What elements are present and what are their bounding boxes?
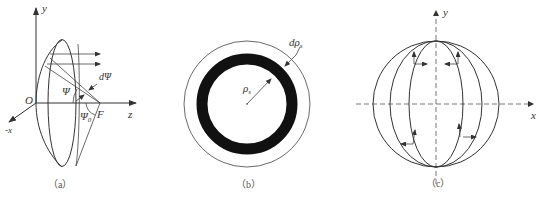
y-axis-label: y: [41, 2, 47, 14]
panel-a-paraboloid-diagram: y z -x O F Ψ dΨ Ψ0 （a）: [5, 2, 136, 190]
caption-a: （a）: [48, 179, 72, 190]
dpsi-arrow-outer: [89, 84, 97, 90]
focus-label: F: [96, 108, 104, 120]
radius-label: ρs: [242, 82, 251, 96]
d-rho-arrow: [285, 55, 296, 66]
panel-b-annular-ring-diagram: ρs dρs （b）: [184, 36, 310, 190]
caption-b: （b）: [236, 179, 261, 190]
focal-plane-curve: [76, 44, 79, 166]
x-axis-arrowhead: [528, 101, 534, 107]
dpsi-arrow-inner: [76, 95, 84, 101]
y-axis-arrowhead: [433, 10, 439, 16]
origin-label: O: [25, 94, 33, 106]
ray-lower: [45, 66, 100, 103]
x-axis-label: x: [530, 109, 536, 121]
radius-increment-label: dρs: [289, 36, 303, 50]
angle-increment-label: dΨ: [99, 71, 112, 82]
neg-x-axis-label: -x: [5, 125, 12, 135]
ray-upper: [50, 58, 100, 103]
z-axis-label: z: [127, 108, 133, 120]
panel-c-field-lines-diagram: y x （c）: [356, 6, 536, 189]
figure-canvas: y z -x O F Ψ dΨ Ψ0 （a） ρs dρs （b）: [0, 0, 540, 201]
caption-c: （c）: [426, 178, 450, 189]
angle-psi-label: Ψ: [62, 85, 71, 97]
y-axis-label: y: [442, 6, 448, 18]
